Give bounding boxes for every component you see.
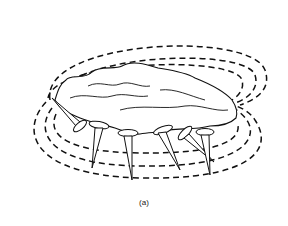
- magnet-diagram: [0, 0, 288, 226]
- figure-caption: (a): [0, 198, 288, 207]
- tack: [152, 123, 180, 170]
- tack: [118, 130, 138, 181]
- tack: [196, 129, 214, 176]
